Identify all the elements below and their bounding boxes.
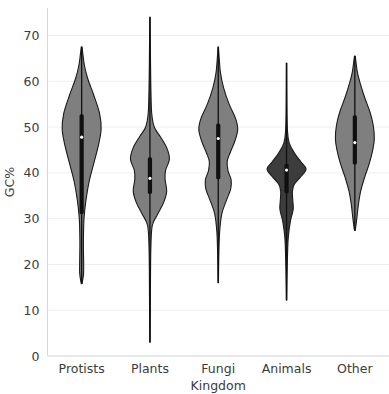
median-marker-protists bbox=[80, 136, 83, 139]
x-tick-labels-group: ProtistsPlantsFungiAnimalsOther bbox=[59, 361, 374, 376]
violin-other bbox=[335, 56, 374, 230]
y-tick-label-0: 0 bbox=[32, 349, 40, 364]
x-tick-label-plants: Plants bbox=[131, 361, 169, 376]
y-tick-label-60: 60 bbox=[24, 74, 40, 89]
y-tick-label-10: 10 bbox=[24, 303, 40, 318]
median-marker-fungi bbox=[217, 137, 220, 140]
violins-group bbox=[62, 17, 374, 342]
violin-protists bbox=[62, 47, 101, 284]
x-tick-label-other: Other bbox=[337, 361, 373, 376]
x-tick-label-fungi: Fungi bbox=[201, 361, 235, 376]
violin-fungi bbox=[199, 47, 238, 283]
median-marker-plants bbox=[148, 177, 151, 180]
chart-canvas: 010203040506070 ProtistsPlantsFungiAnima… bbox=[0, 0, 389, 394]
y-tick-label-50: 50 bbox=[24, 120, 40, 135]
iqr-box-protists bbox=[80, 114, 84, 214]
y-tick-label-40: 40 bbox=[24, 165, 40, 180]
x-tick-label-protists: Protists bbox=[59, 361, 105, 376]
iqr-box-plants bbox=[148, 157, 152, 194]
median-marker-animals bbox=[285, 169, 288, 172]
y-tick-label-20: 20 bbox=[24, 257, 40, 272]
iqr-box-other bbox=[353, 115, 357, 164]
iqr-box-fungi bbox=[216, 123, 220, 179]
y-tick-label-30: 30 bbox=[24, 211, 40, 226]
x-tick-label-animals: Animals bbox=[262, 361, 312, 376]
x-axis-title: Kingdom bbox=[191, 378, 246, 393]
y-tick-label-70: 70 bbox=[24, 28, 40, 43]
violin-plants bbox=[130, 17, 169, 342]
y-tick-labels-group: 010203040506070 bbox=[24, 28, 40, 364]
median-marker-other bbox=[353, 141, 356, 144]
violin-plot-figure: 010203040506070 ProtistsPlantsFungiAnima… bbox=[0, 0, 389, 394]
iqr-box-animals bbox=[284, 164, 288, 194]
y-axis-title: GC% bbox=[2, 167, 17, 197]
